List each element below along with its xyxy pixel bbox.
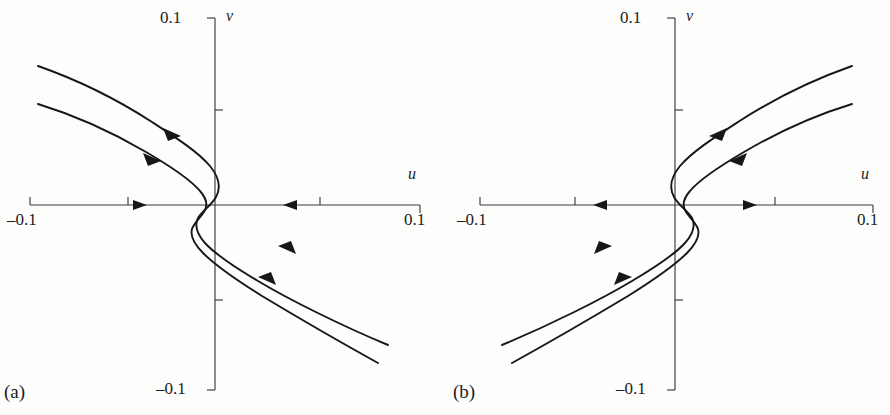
u-axis-name-label: u <box>408 166 416 182</box>
u-axis-flow-arrow-right <box>743 200 757 210</box>
v-axis-bottom-label: –0.1 <box>156 380 186 397</box>
panel-b: 0.1 v –0.1 –0.1 0.1 u (b) <box>445 0 890 415</box>
u-axis-right-label: 0.1 <box>857 211 878 228</box>
phase-portrait-figure: 0.1 v –0.1 –0.1 0.1 u (a) <box>0 0 890 415</box>
u-axis-flow-arrow-left <box>593 200 607 210</box>
v-axis-top-label: 0.1 <box>620 9 641 26</box>
u-axis-left-label: –0.1 <box>7 211 37 228</box>
panel-b-tag: (b) <box>453 382 475 401</box>
panel-b-plot <box>445 0 890 415</box>
flow-arrow-outer-lower <box>278 241 296 254</box>
panel-a-plot <box>0 0 445 415</box>
u-axis-flow-arrow-left <box>133 200 147 210</box>
v-axis-name-label: v <box>686 8 693 24</box>
u-axis-left-label: –0.1 <box>457 211 487 228</box>
u-axis-flow-arrow-right <box>283 200 297 210</box>
panel-a-tag: (a) <box>4 382 25 401</box>
u-axis-name-label: u <box>861 166 869 182</box>
u-axis-right-label: 0.1 <box>404 211 425 228</box>
v-axis-name-label: v <box>226 8 233 24</box>
v-axis-bottom-label: –0.1 <box>616 380 646 397</box>
flow-arrow-outer-lower <box>594 241 612 254</box>
trajectory-inner <box>512 104 852 363</box>
v-axis-top-label: 0.1 <box>160 9 181 26</box>
trajectory-inner <box>38 104 378 363</box>
panel-a: 0.1 v –0.1 –0.1 0.1 u (a) <box>0 0 445 415</box>
